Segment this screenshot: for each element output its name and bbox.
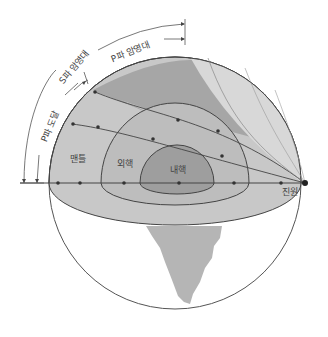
inner-core-label: 내핵 [170, 166, 186, 175]
focus-label: 진원 [282, 188, 298, 197]
diagram-graphic [0, 0, 328, 337]
focus-point [302, 180, 308, 186]
earth-seismic-wave-diagram: 맨틀 외핵 내핵 진원 P파 도달 S파 암영대 P파 암영대 [0, 0, 328, 337]
mantle-label: 맨틀 [70, 155, 86, 164]
outer-core-label: 외핵 [117, 160, 133, 169]
